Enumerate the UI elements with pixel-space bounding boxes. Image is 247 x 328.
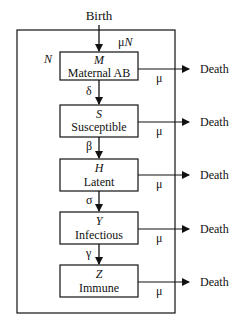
compartment-latent: H Latent xyxy=(60,159,138,191)
population-label: N xyxy=(43,52,53,66)
transition-rate-gamma: γ xyxy=(85,246,92,260)
compartment-symbol: S xyxy=(96,107,102,121)
compartment-susceptible: S Susceptible xyxy=(60,105,138,137)
death-rate-label: μ xyxy=(156,124,162,138)
compartment-maternal-ab: M Maternal AB xyxy=(60,52,138,80)
transition-rate-sigma: σ xyxy=(86,193,93,207)
compartment-name: Susceptible xyxy=(71,120,126,134)
compartment-symbol: M xyxy=(93,53,105,67)
compartment-infectious: Y Infectious xyxy=(60,212,138,244)
compartment-immune: Z Immune xyxy=(60,265,138,297)
death-rate-label: μ xyxy=(156,231,162,245)
death-label: Death xyxy=(200,222,229,236)
compartment-name: Maternal AB xyxy=(68,66,130,80)
transition-rate-beta: β xyxy=(86,139,92,153)
compartment-symbol: H xyxy=(94,161,105,175)
transition-rate-delta: δ xyxy=(86,84,92,98)
death-label: Death xyxy=(200,275,229,289)
death-label: Death xyxy=(200,168,229,182)
death-label: Death xyxy=(200,62,229,76)
death-rate-label: μ xyxy=(156,177,162,191)
compartment-symbol: Z xyxy=(96,267,103,281)
compartment-name: Infectious xyxy=(75,228,123,242)
death-rate-label: μ xyxy=(156,284,162,298)
compartment-name: Latent xyxy=(84,175,115,189)
compartment-name: Immune xyxy=(79,281,119,295)
birth-rate-label: μN xyxy=(118,35,133,49)
death-label: Death xyxy=(200,115,229,129)
death-rate-label: μ xyxy=(156,71,162,85)
compartment-diagram: Birth μN N M Maternal AB μ Death δ S Sus… xyxy=(0,0,247,328)
birth-label: Birth xyxy=(86,8,113,23)
